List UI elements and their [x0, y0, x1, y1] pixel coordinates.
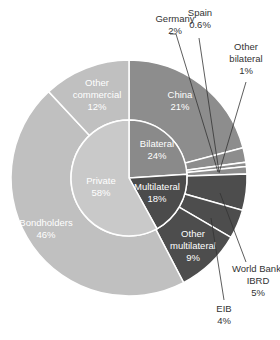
- callout-label-eib: EIB4%: [216, 303, 231, 326]
- callout-label-spain: Spain0.6%: [188, 7, 212, 30]
- callout-label-world-bank-ibrd: World Bank-IBRD5%: [232, 263, 280, 298]
- callout-label-other-bilateral: Otherbilateral1%: [229, 41, 262, 76]
- outer-label-china: China21%: [168, 89, 194, 112]
- sunburst-chart: Bilateral24%Multilateral18%Private58%Chi…: [0, 0, 280, 340]
